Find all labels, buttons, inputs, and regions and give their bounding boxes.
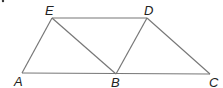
segment-eb bbox=[52, 18, 116, 74]
segment-bd bbox=[116, 18, 147, 74]
geometry-diagram: E D A B C bbox=[0, 0, 223, 88]
label-d: D bbox=[144, 3, 153, 18]
label-b: B bbox=[111, 75, 120, 88]
corner-dot bbox=[2, 0, 4, 2]
label-c: C bbox=[209, 75, 219, 88]
label-a: A bbox=[13, 74, 23, 88]
segment-ae bbox=[22, 18, 52, 73]
segment-dc bbox=[147, 18, 210, 74]
label-e: E bbox=[45, 3, 54, 18]
